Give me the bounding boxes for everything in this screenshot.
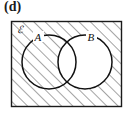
venn-diagram-canvas: ℰ A B [0, 0, 132, 116]
universal-set-symbol: ℰ [17, 24, 24, 35]
shaded-region-b-complement [12, 22, 122, 107]
venn-diagram-figure: (d) ℰ A [0, 0, 132, 116]
set-a-label: A [34, 31, 42, 43]
set-b-label: B [88, 31, 95, 43]
